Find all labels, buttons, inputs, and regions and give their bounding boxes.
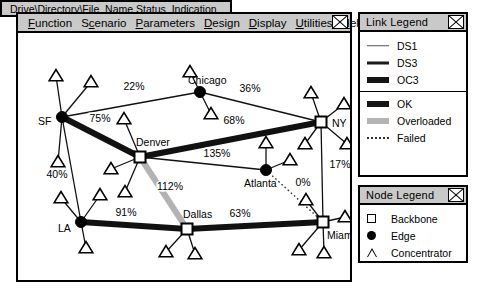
concentrator-node[interactable] <box>118 186 132 197</box>
triangle-node-icon <box>367 248 383 257</box>
link-status-group: OKOverloadedFailed <box>360 95 466 146</box>
trunk-link-sf-chicago[interactable] <box>62 92 200 117</box>
link-swatch-fail-icon <box>367 132 389 144</box>
link-legend-item-failed[interactable]: Failed <box>360 129 466 146</box>
trunk-link-dallas-miami[interactable] <box>187 222 323 229</box>
utilization-label-denver-ny: 68% <box>223 114 244 126</box>
utilization-label-sf-la: 40% <box>46 168 67 180</box>
link-legend-item-oc3[interactable]: OC3 <box>360 71 466 88</box>
concentrator-node[interactable] <box>104 163 118 174</box>
concentrator-node[interactable] <box>283 154 297 165</box>
link-legend-item-overloaded[interactable]: Overloaded <box>360 112 466 129</box>
trunk-link-chicago-ny[interactable] <box>200 92 321 122</box>
concentrator-node[interactable] <box>117 113 131 124</box>
utilization-label-ny-miami: 17% <box>329 158 350 170</box>
concentrator-node[interactable] <box>84 76 98 87</box>
close-x-icon <box>449 189 463 201</box>
trunk-link-la-dallas[interactable] <box>81 222 187 229</box>
node-label-denver: Denver <box>136 136 170 148</box>
concentrator-node[interactable] <box>298 138 312 149</box>
node-label-chicago: Chicago <box>188 74 227 86</box>
menu-bar: FunctionScenarioParametersDesignDisplayU… <box>18 14 350 33</box>
utilization-label-sf-denver: 75% <box>89 112 110 124</box>
concentrator-node[interactable] <box>337 98 350 109</box>
link-legend-label: DS1 <box>397 40 417 52</box>
concentrator-node[interactable] <box>93 189 107 200</box>
network-map-canvas[interactable]: SFChicagoNYDenverAtlantaDallasLAMiami22%… <box>18 33 350 280</box>
menu-item-parameters[interactable]: Parameters <box>136 17 195 29</box>
link-swatch-ok-icon <box>367 98 389 110</box>
utilization-label-denver-dallas: 112% <box>157 180 183 192</box>
link-legend-item-ds1[interactable]: DS1 <box>360 37 466 54</box>
utilization-label-atlanta-miami: 0% <box>295 176 310 188</box>
link-legend-label: OK <box>397 98 412 110</box>
node-legend-titlebar: Node Legend <box>360 187 466 205</box>
concentrator-node[interactable] <box>259 137 273 148</box>
concentrator-node[interactable] <box>49 70 63 81</box>
node-legend-window: Node Legend BackboneEdgeConcentrator <box>358 185 468 263</box>
link-swatch-ds3-icon <box>367 57 389 69</box>
node-legend-label: Backbone <box>391 213 438 225</box>
link-legend-label: OC3 <box>397 74 419 86</box>
link-legend-item-ok[interactable]: OK <box>360 95 466 112</box>
square-node-icon <box>367 214 383 223</box>
concentrator-node[interactable] <box>204 108 218 119</box>
menu-item-function[interactable]: Function <box>28 17 72 29</box>
trunk-link-denver-dallas[interactable] <box>140 157 187 229</box>
link-legend-titlebar: Link Legend <box>360 14 466 32</box>
node-legend-item-concentrator[interactable]: Concentrator <box>360 244 466 261</box>
concentrator-node[interactable] <box>54 192 68 203</box>
backbone-node-ny[interactable] <box>316 117 327 128</box>
edge-node-sf[interactable] <box>57 112 68 123</box>
node-legend-close-button[interactable] <box>448 188 464 202</box>
node-label-ny: NY <box>332 117 347 129</box>
node-label-sf: SF <box>38 115 51 127</box>
backbone-node-miami[interactable] <box>318 217 329 228</box>
concentrator-node[interactable] <box>299 194 313 205</box>
link-swatch-oc3-icon <box>367 74 389 86</box>
utilization-label-dallas-miami: 63% <box>229 207 250 219</box>
concentrator-node[interactable] <box>51 156 65 167</box>
menu-item-design[interactable]: Design <box>204 17 240 29</box>
close-x-icon <box>333 16 347 28</box>
close-window-button[interactable] <box>332 15 348 29</box>
link-legend-label: Overloaded <box>397 115 451 127</box>
concentrator-node[interactable] <box>188 248 202 259</box>
node-type-group: BackboneEdgeConcentrator <box>360 210 466 261</box>
concentrator-node[interactable] <box>79 242 93 253</box>
menu-item-utilities[interactable]: Utilities <box>296 17 333 29</box>
access-link[interactable] <box>56 76 62 117</box>
edge-node-chicago[interactable] <box>195 87 206 98</box>
link-legend-item-ds3[interactable]: DS3 <box>360 54 466 71</box>
node-legend-item-backbone[interactable]: Backbone <box>360 210 466 227</box>
edge-node-atlanta[interactable] <box>261 165 272 176</box>
menu-items-container: FunctionScenarioParametersDesignDisplayU… <box>18 14 365 31</box>
concentrator-node[interactable] <box>304 87 318 98</box>
network-topology-graph: SFChicagoNYDenverAtlantaDallasLAMiami22%… <box>18 33 350 280</box>
link-legend-label: DS3 <box>397 57 417 69</box>
node-label-dallas: Dallas <box>183 208 212 220</box>
utilization-label-denver-atlanta: 135% <box>204 147 231 159</box>
node-legend-label: Edge <box>391 230 416 242</box>
trunk-link-ny-miami[interactable] <box>321 122 323 222</box>
concentrator-node[interactable] <box>317 247 331 258</box>
legend-divider <box>360 91 466 92</box>
menu-item-display[interactable]: Display <box>249 17 287 29</box>
link-legend-window: Link Legend DS1DS3OC3 OKOverloadedFailed <box>358 12 468 177</box>
node-legend-label: Concentrator <box>391 247 452 259</box>
backbone-node-denver[interactable] <box>135 152 146 163</box>
backbone-node-dallas[interactable] <box>182 224 193 235</box>
utilization-label-sf-chicago: 22% <box>123 80 144 92</box>
link-legend-body: DS1DS3OC3 OKOverloadedFailed <box>360 32 466 146</box>
close-x-icon <box>449 16 463 28</box>
node-label-atlanta: Atlanta <box>244 177 277 189</box>
edge-node-la[interactable] <box>76 217 87 228</box>
concentrator-node[interactable] <box>338 211 350 222</box>
link-legend-close-button[interactable] <box>448 15 464 29</box>
link-swatch-over-icon <box>367 115 389 127</box>
menu-item-scenario[interactable]: Scenario <box>81 17 126 29</box>
node-label-miami: Miami <box>327 229 350 241</box>
main-application-window: FunctionScenarioParametersDesignDisplayU… <box>16 12 352 282</box>
node-legend-item-edge[interactable]: Edge <box>360 227 466 244</box>
link-capacity-group: DS1DS3OC3 <box>360 37 466 88</box>
